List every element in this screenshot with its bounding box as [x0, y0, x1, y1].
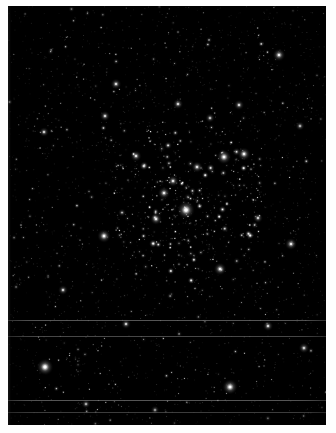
star-field-plate: [8, 6, 326, 425]
image-viewport: [0, 0, 336, 433]
star-field-canvas: [8, 6, 326, 425]
